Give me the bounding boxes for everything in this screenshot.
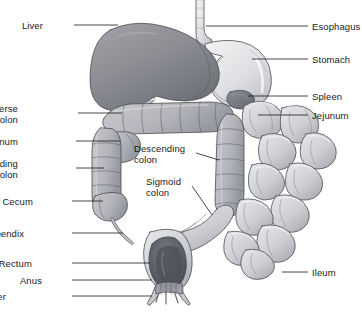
digestive-system-figure: LiverTranverse colonDuodenumAscending co… [0, 0, 362, 313]
label-sigmoid-colon: Sigmoid colon [146, 176, 181, 198]
organ-appendix [112, 219, 132, 243]
label-rectum: Rectum [0, 258, 32, 269]
leader-line-sigmoid-colon [192, 186, 212, 215]
label-descending-colon: Descending colon [134, 143, 185, 165]
label-jejunum: Jejunum [312, 110, 349, 121]
organ-esophagus [196, 0, 212, 48]
leader-line-descending-colon [196, 153, 219, 160]
label-appendix: Appendix [0, 228, 24, 239]
label-spleen: Spleen [312, 91, 342, 102]
label-duodenum: Duodenum [0, 136, 18, 147]
label-stomach: Stomach [312, 54, 350, 65]
label-anal-sphincter: Anal sphincter [0, 291, 6, 302]
label-liver: Liver [22, 20, 43, 31]
organ-anal-sphincter [155, 282, 183, 294]
organ-cecum [93, 192, 128, 221]
label-transverse-colon: Tranverse colon [0, 103, 18, 125]
label-anus: Anus [20, 275, 42, 286]
label-ascending-colon: Ascending colon [0, 158, 18, 180]
label-cecum: Cecum [2, 196, 33, 207]
organ-transverse-colon [103, 102, 234, 134]
label-ileum: Ileum [312, 267, 336, 278]
label-esophagus: Esophagus [312, 21, 360, 32]
